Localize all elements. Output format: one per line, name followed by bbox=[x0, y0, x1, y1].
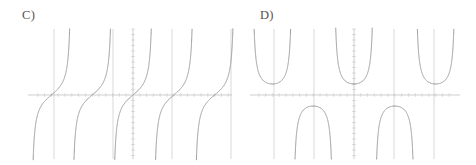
axes-c bbox=[28, 29, 232, 159]
figure-sheet: C) D) bbox=[0, 0, 476, 165]
secant-graph-svg bbox=[238, 0, 476, 165]
tangent-graph-svg bbox=[0, 0, 238, 165]
plot-area-d bbox=[238, 0, 476, 165]
graph-panel-d: D) bbox=[238, 0, 476, 165]
asymptote-lines-c bbox=[54, 29, 231, 159]
graph-panel-c: C) bbox=[0, 0, 238, 165]
axes-d bbox=[250, 29, 460, 159]
plot-area-c bbox=[0, 0, 238, 165]
